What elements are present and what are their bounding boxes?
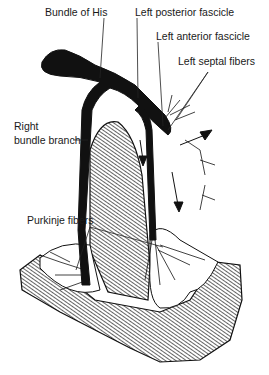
label-left-posterior-fascicle: Left posterior fascicle bbox=[135, 6, 234, 18]
label-left-anterior-fascicle: Left anterior fascicle bbox=[156, 30, 250, 42]
myocardium bbox=[20, 122, 242, 362]
label-right-bundle-branch-line1: Right bbox=[14, 120, 39, 132]
conduction-system-diagram: Bundle of His Left posterior fascicle Le… bbox=[0, 0, 269, 375]
label-left-septal-fibers: Left septal fibers bbox=[178, 55, 255, 67]
label-purkinje-fibers: Purkinje fibers bbox=[27, 214, 94, 226]
label-right-bundle-branch-line2: bundle branch bbox=[14, 134, 81, 146]
label-bundle-of-his: Bundle of His bbox=[45, 6, 107, 18]
